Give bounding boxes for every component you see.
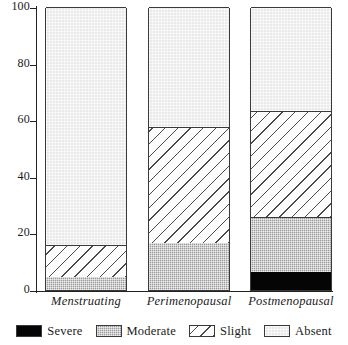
- y-axis-tick-label: 0: [24, 283, 30, 295]
- x-axis-label-perimenopausal: Perimenopausal: [134, 294, 244, 309]
- bar-segment-moderate[interactable]: [251, 217, 331, 272]
- y-axis-tick-label: 20: [18, 226, 30, 238]
- legend-item-slight[interactable]: Slight: [189, 324, 251, 339]
- legend-item-absent[interactable]: Absent: [264, 324, 332, 339]
- legend-swatch-slight-icon: [189, 325, 215, 337]
- legend-item-severe[interactable]: Severe: [16, 324, 82, 339]
- y-axis-tick-label: 100: [11, 0, 30, 12]
- y-axis-tick-label: 40: [18, 170, 30, 182]
- chart-legend: SevereModerateSlightAbsent: [0, 320, 348, 342]
- x-axis-line: [36, 291, 333, 292]
- y-axis-tick-label: 80: [18, 57, 30, 69]
- bar-perimenopausal[interactable]: [148, 8, 230, 291]
- bar-segment-slight[interactable]: [149, 127, 229, 243]
- bar-postmenopausal[interactable]: [250, 8, 332, 291]
- x-axis-label-postmenopausal: Postmenopausal: [236, 294, 346, 309]
- bar-segment-severe[interactable]: [251, 272, 331, 290]
- bar-segment-absent[interactable]: [251, 7, 331, 111]
- legend-label-moderate: Moderate: [127, 324, 177, 339]
- legend-label-absent: Absent: [295, 324, 332, 339]
- legend-item-moderate[interactable]: Moderate: [96, 324, 177, 339]
- bar-segment-absent[interactable]: [46, 7, 126, 245]
- bar-segment-moderate[interactable]: [149, 243, 229, 290]
- bar-segment-absent[interactable]: [149, 7, 229, 127]
- y-axis-tick-label: 60: [18, 113, 30, 125]
- legend-swatch-severe-icon: [16, 325, 42, 337]
- stacked-bar-chart: Percent 100806040200 MenstruatingPerimen…: [0, 0, 348, 345]
- bar-segment-moderate[interactable]: [46, 277, 126, 290]
- legend-swatch-moderate-icon: [96, 325, 122, 337]
- bar-menstruating[interactable]: [45, 8, 127, 291]
- legend-label-slight: Slight: [220, 324, 251, 339]
- legend-label-severe: Severe: [47, 324, 82, 339]
- bar-segment-slight[interactable]: [251, 111, 331, 217]
- x-axis-label-menstruating: Menstruating: [31, 294, 141, 309]
- legend-swatch-absent-icon: [264, 325, 290, 337]
- y-axis-line: [36, 6, 37, 293]
- bar-segment-slight[interactable]: [46, 245, 126, 277]
